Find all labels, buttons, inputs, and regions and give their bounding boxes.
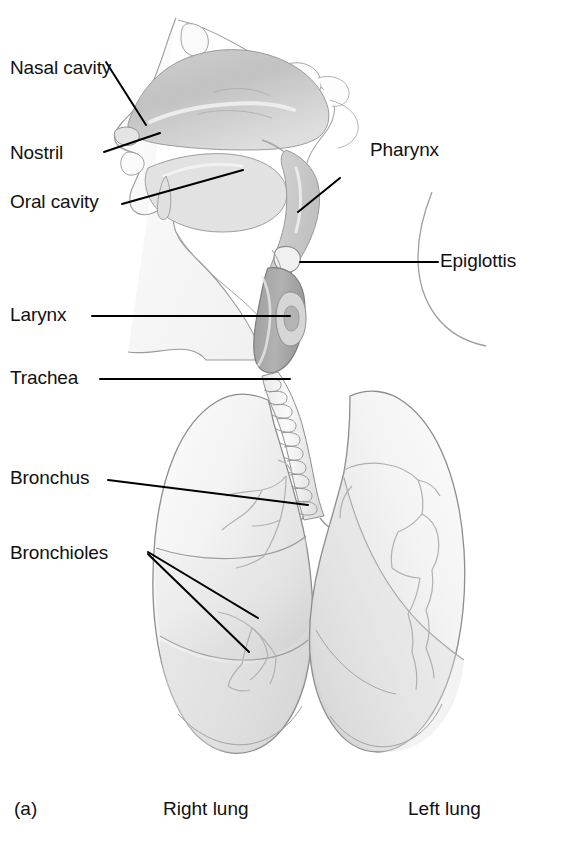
left-lung bbox=[309, 391, 464, 752]
lungs-group bbox=[153, 391, 465, 753]
label-pharynx: Pharynx bbox=[370, 140, 439, 160]
anatomical-illustration bbox=[0, 0, 561, 846]
label-bronchioles: Bronchioles bbox=[10, 543, 108, 563]
label-epiglottis: Epiglottis bbox=[440, 251, 516, 271]
leader-nasal-cavity bbox=[106, 62, 146, 125]
panel-id-caption: (a) bbox=[14, 798, 37, 820]
label-left-lung: Left lung bbox=[408, 798, 481, 820]
respiratory-system-figure: Nasal cavity Nostril Oral cavity Larynx … bbox=[0, 0, 561, 846]
label-nostril: Nostril bbox=[10, 143, 63, 163]
label-bronchus: Bronchus bbox=[10, 468, 89, 488]
nostril-region bbox=[115, 127, 140, 145]
glottis-opening bbox=[284, 306, 299, 331]
label-right-lung: Right lung bbox=[163, 798, 249, 820]
label-trachea: Trachea bbox=[10, 368, 78, 388]
label-larynx: Larynx bbox=[10, 305, 66, 325]
label-nasal-cavity: Nasal cavity bbox=[10, 58, 111, 78]
label-oral-cavity: Oral cavity bbox=[10, 192, 99, 212]
